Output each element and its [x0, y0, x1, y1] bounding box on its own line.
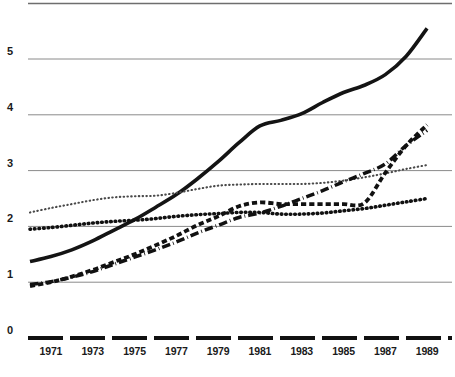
series-layer: [30, 28, 427, 286]
x-tick-1977: 1977: [153, 345, 199, 357]
x-tick-1979: 1979: [195, 345, 241, 357]
x-tick-1987: 1987: [362, 345, 408, 357]
series-dashed: [30, 125, 427, 286]
y-tick-0: 0: [7, 324, 13, 336]
y-tick-1: 1: [7, 268, 13, 280]
x-tick-1981: 1981: [237, 345, 283, 357]
y-tick-3: 3: [7, 157, 13, 169]
gridlines: [28, 59, 452, 282]
x-tick-1971: 1971: [28, 345, 74, 357]
series-dotted-bold: [30, 199, 427, 230]
x-tick-1983: 1983: [279, 345, 325, 357]
x-tick-1973: 1973: [70, 345, 116, 357]
x-tick-1985: 1985: [321, 345, 367, 357]
x-tick-1975: 1975: [112, 345, 158, 357]
y-tick-4: 4: [7, 101, 13, 113]
x-tick-1989: 1989: [404, 345, 450, 357]
y-tick-5: 5: [7, 45, 13, 57]
line-chart: 543210 197119731975197719791981198319851…: [0, 0, 455, 377]
chart-canvas: [0, 0, 455, 377]
y-tick-2: 2: [7, 212, 13, 224]
